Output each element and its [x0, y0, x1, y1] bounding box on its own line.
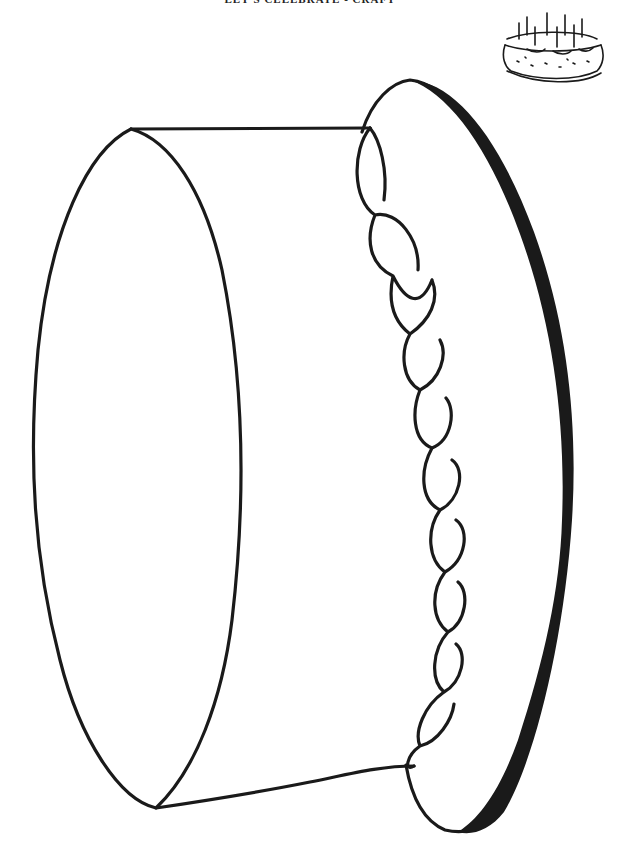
frosting-scallops [357, 128, 465, 767]
cake-outline-drawing [0, 0, 620, 861]
cake-bottom-edge [156, 766, 414, 808]
cake-with-candles-icon [497, 5, 607, 87]
frosting-left-edge [370, 128, 385, 200]
cake-top-ellipse [33, 129, 240, 808]
plate-rim [410, 80, 574, 833]
cake-top-edge [131, 128, 370, 129]
